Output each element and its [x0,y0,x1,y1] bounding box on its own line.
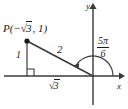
hypotenuse-label: 2 [57,44,63,55]
sqrt-three-glyph: √3 [49,81,60,91]
y-axis-arrowhead [89,3,96,9]
point-x-value: −√3 [13,23,32,34]
angle-measure-label: 5π 6 [97,36,109,59]
point-p-marker [24,38,29,43]
x-axis-label: x [117,82,121,91]
horizontal-leg-label: √3 [49,81,60,91]
x-axis-arrowhead [119,72,125,79]
point-p-name: P [3,22,10,34]
angle-numerator: 5π [97,36,109,46]
y-axis-label: y [86,2,90,11]
point-p-label: P(−√3, 1) [3,23,47,34]
trigonometry-diagram: P(−√3, 1) 1 2 √3 x y 5π 6 [0,0,128,109]
right-angle-marker [27,69,34,76]
angle-denominator: 6 [97,49,109,59]
point-close-paren: ) [43,22,47,34]
vertical-leg-label: 1 [16,50,21,60]
